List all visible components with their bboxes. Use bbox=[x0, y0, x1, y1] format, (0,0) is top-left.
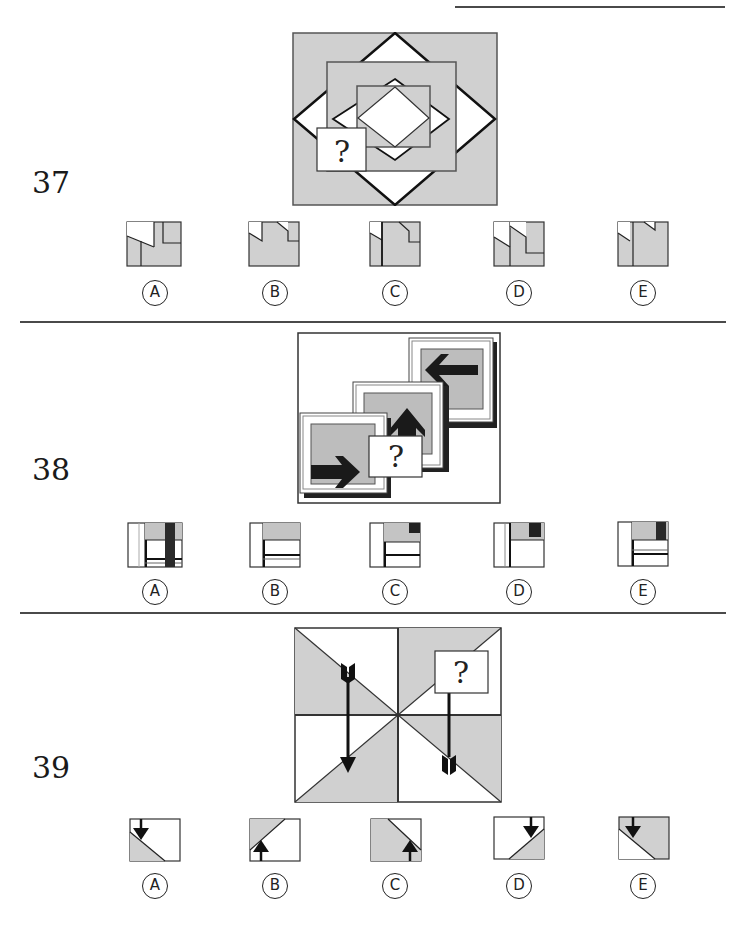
question-number-39: 39 bbox=[32, 750, 70, 785]
q37-figure: ? bbox=[292, 32, 498, 206]
q37-label-c: C bbox=[382, 280, 408, 306]
q38-option-b[interactable] bbox=[249, 522, 301, 568]
q37-option-e[interactable] bbox=[617, 221, 669, 267]
q38-label-a: A bbox=[142, 579, 168, 605]
question-number-38: 38 bbox=[32, 452, 70, 487]
q39-option-d[interactable] bbox=[493, 816, 545, 860]
q39-label-d: D bbox=[506, 873, 532, 899]
q37-label-e: E bbox=[630, 280, 656, 306]
q38-option-a[interactable] bbox=[127, 522, 183, 568]
q39-option-b[interactable] bbox=[249, 818, 301, 862]
q38-option-e[interactable] bbox=[617, 521, 669, 567]
q38-label-b: B bbox=[262, 579, 288, 605]
q38-option-d[interactable] bbox=[493, 522, 545, 568]
divider-37-38 bbox=[20, 321, 726, 323]
q37-label-b: B bbox=[262, 280, 288, 306]
svg-text:?: ? bbox=[334, 134, 350, 169]
q37-option-b[interactable] bbox=[248, 221, 300, 267]
divider-38-39 bbox=[20, 612, 726, 614]
q39-label-a: A bbox=[142, 873, 168, 899]
q39-option-c[interactable] bbox=[370, 818, 422, 862]
q38-label-d: D bbox=[506, 579, 532, 605]
svg-text:?: ? bbox=[388, 439, 404, 474]
q37-option-c[interactable] bbox=[369, 221, 421, 267]
q38-option-c[interactable] bbox=[369, 522, 421, 568]
q38-label-c: C bbox=[382, 579, 408, 605]
q39-label-e: E bbox=[630, 873, 656, 899]
q37-option-d[interactable] bbox=[493, 221, 545, 267]
q38-label-e: E bbox=[630, 579, 656, 605]
q39-option-e[interactable] bbox=[618, 816, 670, 860]
q38-figure: ? bbox=[297, 332, 501, 504]
q39-label-b: B bbox=[262, 873, 288, 899]
svg-text:?: ? bbox=[453, 655, 469, 690]
q37-option-a[interactable] bbox=[126, 221, 182, 267]
q37-label-d: D bbox=[506, 280, 532, 306]
header-rule bbox=[455, 6, 725, 8]
q37-label-a: A bbox=[142, 280, 168, 306]
q39-label-c: C bbox=[382, 873, 408, 899]
question-number-37: 37 bbox=[32, 165, 70, 200]
q39-option-a[interactable] bbox=[129, 818, 181, 862]
q39-figure: ? bbox=[294, 627, 502, 803]
